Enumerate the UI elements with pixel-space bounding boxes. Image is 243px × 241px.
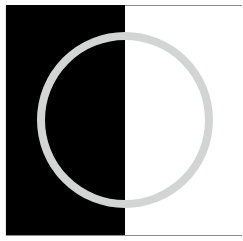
- circle-ring-icon: [0, 0, 243, 241]
- ring-circle: [41, 36, 209, 204]
